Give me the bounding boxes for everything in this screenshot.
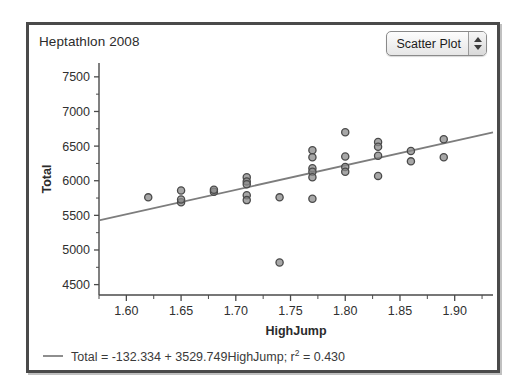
scatter-plot-canvas: 45005000550060006500700075001.601.651.70…: [29, 55, 497, 345]
x-axis-title: HighJump: [265, 324, 326, 338]
data-point[interactable]: [342, 129, 349, 136]
data-point[interactable]: [374, 143, 381, 150]
data-point[interactable]: [309, 147, 316, 154]
x-tick-label: 1.90: [443, 304, 467, 318]
y-axis-title: Total: [40, 165, 54, 194]
y-tick-label: 4500: [62, 278, 90, 292]
data-point[interactable]: [177, 187, 184, 194]
x-tick-label: 1.60: [114, 304, 138, 318]
triangle-up-icon[interactable]: [474, 37, 482, 42]
plot-type-stepper[interactable]: [468, 32, 486, 55]
x-tick-label: 1.85: [388, 304, 412, 318]
data-point[interactable]: [407, 147, 414, 154]
plot-type-popup-button[interactable]: Scatter Plot: [386, 31, 487, 56]
axis-labels-group: 45005000550060006500700075001.601.651.70…: [40, 70, 467, 338]
y-tick-label: 7500: [62, 70, 90, 84]
x-tick-label: 1.75: [278, 304, 302, 318]
data-point[interactable]: [243, 181, 250, 188]
x-tick-label: 1.80: [333, 304, 357, 318]
axes-group: [94, 63, 493, 301]
data-point[interactable]: [276, 259, 283, 266]
data-point[interactable]: [374, 172, 381, 179]
data-point[interactable]: [243, 197, 250, 204]
data-point[interactable]: [309, 154, 316, 161]
data-point[interactable]: [276, 194, 283, 201]
y-tick-label: 6500: [62, 140, 90, 154]
legend-equation-main: Total = -132.334 + 3529.749HighJump; r: [71, 350, 295, 364]
data-points-group: [145, 129, 448, 266]
y-tick-label: 5500: [62, 209, 90, 223]
data-point[interactable]: [342, 153, 349, 160]
data-point[interactable]: [407, 158, 414, 165]
plot-type-selected-label: Scatter Plot: [387, 32, 468, 55]
x-tick-label: 1.65: [169, 304, 193, 318]
data-point[interactable]: [440, 136, 447, 143]
page-title: Heptathlon 2008: [39, 34, 140, 49]
legend: Total = -132.334 + 3529.749HighJump; r2 …: [29, 348, 497, 364]
data-point[interactable]: [440, 154, 447, 161]
data-point[interactable]: [309, 195, 316, 202]
data-point[interactable]: [374, 152, 381, 159]
legend-line-swatch: [43, 355, 63, 357]
y-tick-label: 7000: [62, 105, 90, 119]
regression-line: [99, 132, 493, 220]
y-tick-label: 6000: [62, 174, 90, 188]
y-tick-label: 5000: [62, 243, 90, 257]
chart-window: Heptathlon 2008 Scatter Plot 45005000550…: [26, 22, 500, 373]
triangle-down-icon[interactable]: [474, 45, 482, 50]
x-tick-label: 1.70: [224, 304, 248, 318]
data-point[interactable]: [177, 196, 184, 203]
data-point[interactable]: [342, 168, 349, 175]
data-point[interactable]: [309, 174, 316, 181]
legend-equation-text: Total = -132.334 + 3529.749HighJump; r2 …: [71, 348, 345, 364]
data-point[interactable]: [210, 186, 217, 193]
legend-r2-value: = 0.430: [300, 350, 346, 364]
data-point[interactable]: [145, 194, 152, 201]
